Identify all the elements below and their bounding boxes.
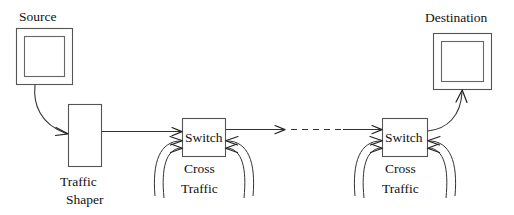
link-source-to-shaper (35, 85, 68, 136)
network-diagram: Source Destination Traffic Shaper Switch… (0, 0, 514, 215)
switch-1-cross-traffic-line1: Cross (184, 161, 215, 176)
switch-1-cross-traffic-line2: Traffic (181, 181, 218, 196)
destination-label: Destination (425, 10, 487, 25)
node-switch-2: Switch Cross Traffic (382, 119, 428, 197)
switch-2-cross-arc-left-inner (363, 148, 381, 198)
node-destination: Destination (425, 10, 492, 90)
link-switch1-to-switch2 (226, 126, 382, 134)
source-to-shaper-curve (35, 85, 66, 134)
diagram-canvas: Source Destination Traffic Shaper Switch… (0, 0, 514, 215)
switch-1-label: Switch (185, 130, 223, 145)
source-inner-rect (25, 37, 65, 77)
traffic-shaper-label-line2: Shaper (66, 192, 104, 207)
switch-1-cross-arc-right-inner (227, 148, 245, 198)
source-label: Source (19, 9, 57, 24)
node-switch-1: Switch Cross Traffic (181, 119, 226, 197)
traffic-shaper-label-line1: Traffic (60, 174, 97, 189)
destination-inner-rect (442, 42, 484, 82)
switch-2-cross-arc-right-inner (429, 148, 447, 198)
link-shaper-to-switch1 (102, 128, 182, 136)
node-source: Source (17, 9, 73, 85)
node-traffic-shaper: Traffic Shaper (60, 105, 104, 208)
switch-2-label: Switch (385, 130, 423, 145)
switch-2-cross-traffic-line1: Cross (385, 161, 416, 176)
switch2-to-destination-curve (428, 92, 462, 131)
switch-1-cross-arc-left-inner (163, 148, 181, 198)
traffic-shaper-rect (69, 105, 102, 167)
link-switch2-to-destination (428, 90, 467, 131)
switch-2-cross-traffic-line2: Traffic (382, 181, 419, 196)
